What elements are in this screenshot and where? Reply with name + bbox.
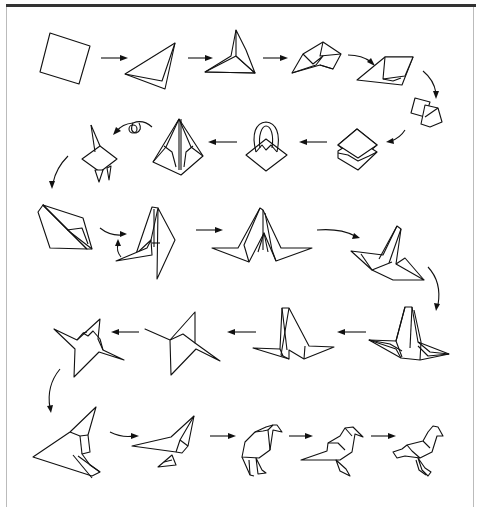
arrow-right: [263, 55, 288, 61]
arrow-left: [337, 329, 366, 335]
step-legs-formed: [253, 308, 334, 359]
arrow-right: [210, 433, 236, 439]
step-petal-fold: [246, 122, 287, 171]
step-square-sheet: [40, 33, 90, 84]
arrow-right: [101, 55, 128, 61]
step-finished-bird: [393, 426, 443, 476]
arrow-curved-right: [110, 432, 139, 439]
step-bird-outline: [33, 407, 100, 478]
step-narrowed-base: [38, 205, 92, 249]
step-wings-folded: [351, 226, 424, 280]
arrow-right: [289, 433, 313, 439]
arrow-turn-over: [113, 122, 152, 135]
arrow-right: [188, 55, 213, 61]
step-refined-bird: [301, 427, 363, 476]
arrow-left: [111, 329, 139, 335]
step-neck-tail-spread: [212, 208, 312, 262]
step-tail-legs: [132, 416, 194, 467]
step-bird-standing: [242, 425, 282, 476]
step-reverse-points: [116, 207, 175, 279]
arrow-curved: [348, 55, 375, 66]
step-reverse-fold: [82, 125, 117, 182]
step-bird-base: [153, 119, 203, 175]
arrow-curved-left: [386, 130, 405, 144]
arrow-curved-down: [423, 71, 439, 99]
arrow-curved-down: [49, 156, 68, 189]
arrow-curved-right: [317, 230, 360, 239]
arrow-left: [299, 139, 327, 145]
arrow-curved-right: [100, 228, 127, 257]
step-square-base-rotated: [411, 98, 442, 127]
arrow-right: [196, 227, 223, 233]
step-square-base: [357, 57, 413, 85]
step-body-rotated: [145, 312, 220, 375]
arrow-left: [208, 139, 237, 145]
arrow-left: [227, 329, 256, 335]
step-square-base-open: [338, 129, 377, 170]
arrow-curved-down: [47, 369, 60, 413]
step-preliminary: [292, 42, 341, 73]
step-layered-wings: [369, 307, 449, 360]
step-head-shaped: [54, 319, 124, 377]
arrow-right: [371, 433, 396, 439]
step-squash-triangle: [205, 30, 255, 73]
step-triangle: [125, 43, 175, 89]
arrow-curved-down: [428, 267, 440, 311]
